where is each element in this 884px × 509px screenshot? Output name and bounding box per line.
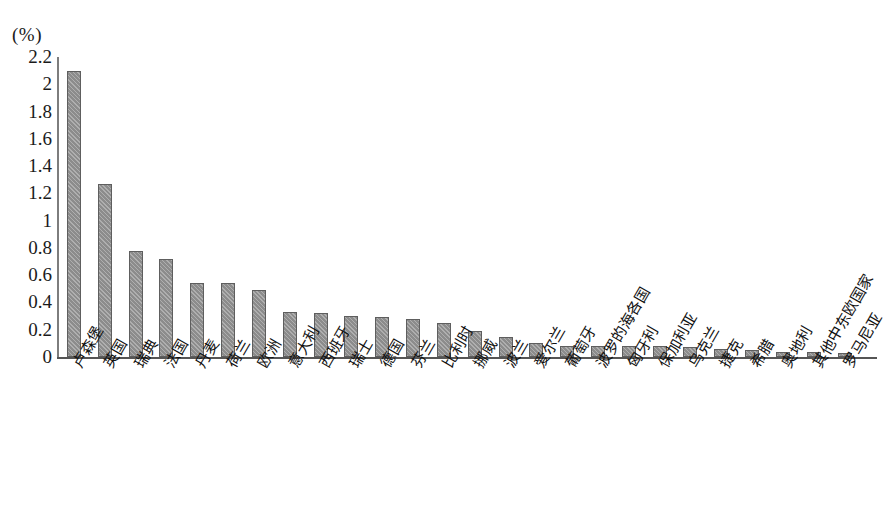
bar-column: [768, 57, 799, 357]
y-axis-tick-label: 1.6: [6, 129, 52, 148]
bar-column: [367, 57, 398, 357]
y-axis-tick-label: 2: [6, 74, 52, 93]
bar-column: [490, 57, 521, 357]
y-axis-tick-label: 2.2: [6, 47, 52, 66]
y-axis-tick-label: 0.2: [6, 320, 52, 339]
bar-column: [644, 57, 675, 357]
bar-column: [182, 57, 213, 357]
y-axis-tick-label: 0.8: [6, 238, 52, 257]
bar-column: [706, 57, 737, 357]
bar-chart: (%) 2.221.81.61.41.210.80.60.40.20 卢森堡英国…: [0, 0, 884, 509]
bar-column: [305, 57, 336, 357]
bar-column: [274, 57, 305, 357]
bar-column: [120, 57, 151, 357]
bar-column: [798, 57, 829, 357]
plot-area: [57, 57, 877, 357]
bar-column: [552, 57, 583, 357]
y-axis-tick-label: 1.8: [6, 102, 52, 121]
y-axis-tick-label: 0.6: [6, 265, 52, 284]
bar-column: [521, 57, 552, 357]
y-axis-tick-label: 1.2: [6, 183, 52, 202]
bar-column: [151, 57, 182, 357]
y-axis-tick-label: 0.4: [6, 292, 52, 311]
y-axis-tick-label: 1.4: [6, 156, 52, 175]
y-axis-tick-label: 1: [6, 211, 52, 230]
y-axis-tick-labels: 2.221.81.61.41.210.80.60.40.20: [0, 0, 52, 509]
bar-column: [244, 57, 275, 357]
bar-column: [398, 57, 429, 357]
bar-column: [459, 57, 490, 357]
y-axis-tick-label: 0: [6, 347, 52, 366]
bar-column: [428, 57, 459, 357]
bar-column: [89, 57, 120, 357]
bar: [129, 251, 143, 357]
bar-column: [583, 57, 614, 357]
bar: [67, 71, 81, 357]
bar-column: [59, 57, 90, 357]
bar-column: [213, 57, 244, 357]
bar-column: [737, 57, 768, 357]
bar-column: [336, 57, 367, 357]
